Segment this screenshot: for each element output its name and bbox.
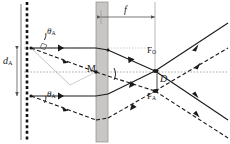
label-focus-a: FA [147,92,156,102]
label-theta-bottom: θA [47,90,56,100]
label-mirror-m: M [87,64,96,74]
node-slab-top [107,49,110,52]
label-separation-d: D [160,74,167,84]
ray-dashed-out-upper [155,48,228,91]
label-d-a: dA [3,56,13,66]
right-angle-marker [40,43,47,50]
ray-arrowhead [128,56,135,63]
ray-dashed-out-lower [155,91,228,138]
optics-ray-diagram-figure: dA f θA θA M FO FA D [0,0,230,144]
ray-arrowhead [58,93,64,100]
ray-arrowhead [58,45,64,52]
ray-arrowhead [192,44,199,51]
node-focus-O [153,69,157,73]
ray-arrowhead [194,63,201,70]
angle-arc-top [45,33,47,40]
lens-slab [96,2,108,142]
node-source-lower [29,94,32,97]
node-source-upper [29,46,32,49]
ray-solid-out-upper [155,23,228,71]
ray-arrowhead [192,91,199,98]
label-theta-top: θA [47,27,56,37]
label-focus-o: FO [147,46,156,56]
perpendicular-helper-line [31,48,70,85]
diagram-canvas [0,0,230,144]
label-focal-f: f [124,5,127,15]
